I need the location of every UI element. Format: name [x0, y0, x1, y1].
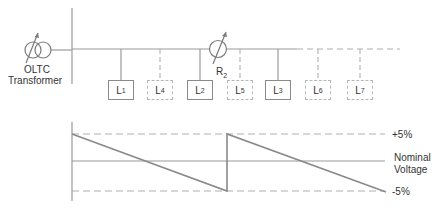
- load-l3: L3: [265, 80, 291, 100]
- diagram-lines: [0, 0, 444, 211]
- upper-limit-label: +5%: [392, 129, 412, 140]
- load-l2: L2: [187, 80, 213, 100]
- nominal-label-line1: Nominal: [394, 152, 431, 163]
- oltc-voltage-diagram: OLTC Transformer R2 L1 L4 L2 L5 L3 L6 L7…: [0, 0, 444, 211]
- load-l7: L7: [347, 80, 373, 100]
- regulator-icon: [210, 32, 228, 64]
- transformer-label-line2: Transformer: [8, 75, 62, 86]
- transformer-icon: [25, 33, 51, 63]
- load-l6: L6: [305, 80, 331, 100]
- lower-limit-label: -5%: [392, 186, 410, 197]
- nominal-label-line2: Voltage: [394, 164, 427, 175]
- transformer-label-line1: OLTC: [24, 64, 50, 75]
- load-l1: L1: [108, 80, 134, 100]
- voltage-profile-plot: [72, 122, 386, 201]
- regulator-label: R2: [216, 66, 227, 81]
- load-l5: L5: [227, 80, 253, 100]
- load-l4: L4: [147, 80, 173, 100]
